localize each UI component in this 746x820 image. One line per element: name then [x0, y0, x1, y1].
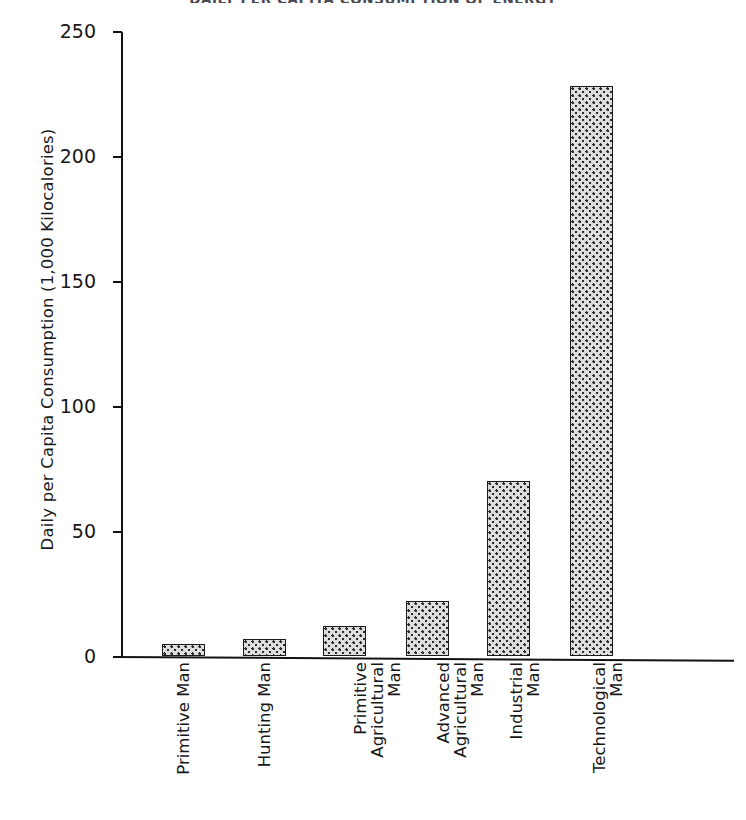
y-axis-tick	[113, 31, 122, 33]
y-axis-tick	[113, 656, 122, 658]
chart-title: DAILY PER CAPITA CONSUMPTION OF ENERGY	[0, 0, 746, 3]
y-axis-tick	[113, 531, 122, 533]
x-axis-category-label-line: Primitive Man	[176, 662, 193, 812]
x-axis-category-label: Primitive Man	[176, 662, 193, 812]
x-axis-category-label: PrimitiveAgriculturalMan	[353, 662, 403, 812]
y-axis-tick-label-group: 250200150100500	[0, 32, 110, 658]
y-axis-tick	[113, 406, 122, 408]
y-axis-tick	[113, 281, 122, 283]
x-axis-category-label-group: Primitive ManHunting ManPrimitiveAgricul…	[121, 662, 746, 820]
x-axis-category-label-line: Agricultural	[369, 662, 386, 812]
x-axis-category-label-line: Industrial	[509, 662, 526, 812]
bar	[570, 86, 613, 656]
x-axis-category-label-line: Technological	[592, 662, 609, 812]
x-axis-category-label: AdvancedAgriculturalMan	[436, 662, 486, 812]
y-axis-tick-label: 50	[72, 522, 96, 541]
y-axis-tick-label: 250	[60, 22, 96, 41]
y-axis-tick	[113, 156, 122, 158]
x-axis-category-label-line: Man	[386, 662, 403, 812]
x-axis-category-label-line: Primitive	[353, 662, 370, 812]
y-axis-line	[121, 32, 123, 658]
x-axis-category-label-line: Advanced	[436, 662, 453, 812]
x-axis-category-label-line: Man	[608, 662, 625, 812]
bar	[323, 626, 366, 656]
bar	[487, 481, 530, 656]
bar	[243, 639, 286, 657]
x-axis-category-label-line: Hunting Man	[257, 662, 274, 812]
plot-area	[121, 32, 746, 657]
x-axis-category-label: TechnologicalMan	[592, 662, 626, 812]
y-axis-tick-label: 150	[60, 272, 96, 291]
bar	[406, 601, 449, 656]
y-axis-tick-label: 0	[84, 647, 96, 666]
y-axis-tick-label: 100	[60, 397, 96, 416]
x-axis-category-label: Hunting Man	[257, 662, 274, 812]
x-axis-category-label-line: Man	[525, 662, 542, 812]
bar	[162, 644, 205, 657]
y-axis-tick-label: 200	[60, 147, 96, 166]
x-axis-category-label-line: Agricultural	[452, 662, 469, 812]
x-axis-category-label-line: Man	[469, 662, 486, 812]
x-axis-line	[114, 656, 734, 662]
x-axis-category-label: IndustrialMan	[509, 662, 543, 812]
bar-chart-figure: DAILY PER CAPITA CONSUMPTION OF ENERGY D…	[0, 0, 746, 820]
